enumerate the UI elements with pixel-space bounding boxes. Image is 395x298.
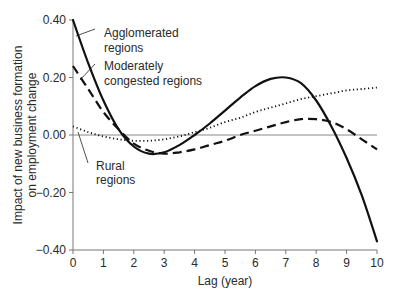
y-tick-label: −0.40 xyxy=(36,243,67,257)
x-tick-label: 3 xyxy=(161,256,168,270)
y-tick-label: −0.20 xyxy=(36,186,67,200)
y-tick-label: 0.40 xyxy=(43,13,67,27)
x-tick-label: 10 xyxy=(370,256,384,270)
x-tick-label: 7 xyxy=(282,256,289,270)
leader-line-rural xyxy=(78,132,88,163)
line-chart: Impact of new business formation on empl… xyxy=(0,0,395,298)
x-tick-label: 6 xyxy=(252,256,259,270)
x-tick-label: 2 xyxy=(130,256,137,270)
x-tick-label: 9 xyxy=(343,256,350,270)
x-axis-label: Lag (year) xyxy=(198,274,253,288)
y-tick-label: 0.20 xyxy=(43,71,67,85)
annotation-agglomerated-line-2: regions xyxy=(104,41,143,55)
series-line-rural-regions xyxy=(73,88,377,141)
annotation-rural-line-1: Rural xyxy=(96,159,125,173)
x-tick-label: 8 xyxy=(313,256,320,270)
x-tick-label: 4 xyxy=(191,256,198,270)
leader-line-agglomerated xyxy=(76,29,95,36)
annotation-rural-line-2: regions xyxy=(96,173,135,187)
x-axis-ticks: 012345678910 xyxy=(70,250,384,270)
x-tick-label: 1 xyxy=(100,256,107,270)
x-tick-label: 0 xyxy=(70,256,77,270)
annotation-moderately-line-1: Moderately xyxy=(104,59,163,73)
x-tick-label: 5 xyxy=(222,256,229,270)
y-axis-label-line-1: Impact of new business formation xyxy=(11,46,25,225)
annotation-moderately-congested: Moderately congested regions xyxy=(80,59,202,88)
annotation-agglomerated: Agglomerated regions xyxy=(76,26,179,55)
y-tick-label: 0.00 xyxy=(43,128,67,142)
annotation-agglomerated-line-1: Agglomerated xyxy=(104,26,179,40)
annotation-moderately-line-2: congested regions xyxy=(104,74,202,88)
y-axis-label-line-2: on employment change xyxy=(25,72,39,197)
y-axis-ticks: 0.400.200.00−0.20−0.40 xyxy=(36,13,73,257)
